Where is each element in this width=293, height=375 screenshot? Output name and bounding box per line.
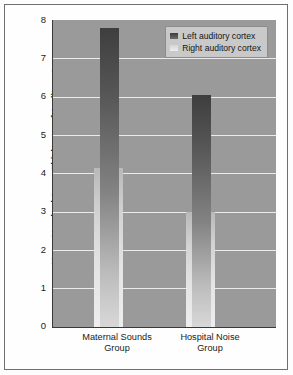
x-tick-label-hospital: Hospital Noise Group — [155, 332, 265, 354]
legend-swatch-left-icon — [170, 33, 178, 39]
gridline-7 — [53, 58, 276, 59]
x-tick-label-hospital-line2: Group — [155, 343, 265, 354]
gridline-4 — [53, 173, 276, 174]
y-tick-label-5: 5 — [30, 130, 46, 140]
figure-container: Mean Standard Score Thickness of Auditor… — [0, 0, 293, 375]
legend-label-left: Left auditory cortex — [182, 31, 255, 41]
bar-hospital-left[interactable] — [192, 95, 211, 327]
y-tick-label-8: 8 — [30, 15, 46, 25]
legend-swatch-right-icon — [170, 45, 178, 51]
gridline-3 — [53, 212, 276, 213]
y-tick-label-7: 7 — [30, 53, 46, 63]
y-tick-label-0: 0 — [30, 321, 46, 331]
y-tick-label-2: 2 — [30, 245, 46, 255]
bar-maternal-left[interactable] — [100, 28, 119, 327]
legend: Left auditory cortex Right auditory cort… — [165, 26, 268, 58]
y-tick-label-4: 4 — [30, 168, 46, 178]
x-tick-label-hospital-line1: Hospital Noise — [155, 332, 265, 343]
y-tick-label-3: 3 — [30, 206, 46, 216]
legend-item-left[interactable]: Left auditory cortex — [170, 30, 261, 42]
legend-item-right[interactable]: Right auditory cortex — [170, 42, 261, 54]
gridline-1 — [53, 288, 276, 289]
plot-area: Left auditory cortex Right auditory cort… — [52, 20, 276, 328]
legend-label-right: Right auditory cortex — [182, 43, 261, 53]
y-tick-label-6: 6 — [30, 91, 46, 101]
gridline-6 — [53, 97, 276, 98]
gridline-5 — [53, 135, 276, 136]
y-tick-label-1: 1 — [30, 283, 46, 293]
gridline-2 — [53, 250, 276, 251]
